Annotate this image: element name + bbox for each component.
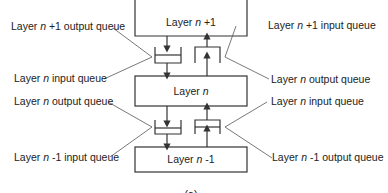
- queue-top-left: [155, 36, 181, 76]
- layer-n-box: Layer n: [135, 76, 247, 106]
- label-layer-n-plus-1-output-queue: Layer n +1 output queue: [11, 20, 125, 32]
- label-layer-n-input-queue-top: Layer n input queue: [14, 72, 107, 84]
- layer-n-plus-1-label: Layer n +1: [166, 16, 216, 28]
- figure-caption: (a): [185, 188, 198, 193]
- queue-bottom-right: [195, 106, 220, 147]
- layer-n-label: Layer n: [173, 85, 208, 97]
- layer-n-plus-1-box: Layer n +1: [135, 0, 247, 36]
- queue-top-right: [195, 36, 220, 76]
- queue-bottom-left: [155, 106, 181, 147]
- layer-n-minus-1-box: Layer n -1: [135, 147, 247, 172]
- label-layer-n-minus-1-output-queue: Layer n -1 output queue: [272, 151, 384, 163]
- label-layer-n-input-queue-bottom: Layer n input queue: [271, 95, 364, 107]
- layer-n-minus-1-label: Layer n -1: [167, 153, 214, 165]
- layered-queue-diagram: Layer n +1 Layer n Layer n -1: [0, 0, 388, 193]
- label-layer-n-minus-1-input-queue: Layer n -1 input queue: [14, 151, 119, 163]
- label-layer-n-output-queue-bottom: Layer n output queue: [14, 95, 113, 107]
- label-layer-n-output-queue-top: Layer n output queue: [271, 73, 370, 85]
- label-layer-n-plus-1-input-queue: Layer n +1 input queue: [268, 19, 376, 31]
